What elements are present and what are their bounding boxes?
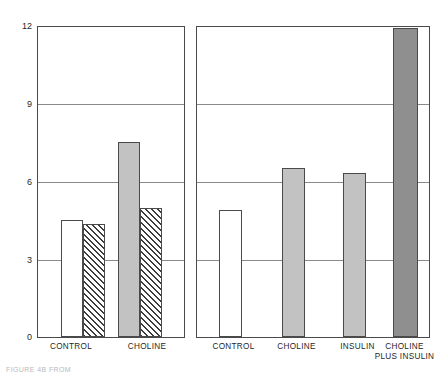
category-label-right-control: CONTROL (200, 342, 267, 352)
category-label-line2: PLUS INSULIN (373, 352, 436, 362)
gridline-9 (38, 104, 184, 105)
left-panel-plot-area (38, 27, 184, 337)
bar-left-choline-hatched (140, 208, 162, 337)
category-label-right-choline: CHOLINE (263, 342, 330, 352)
category-label-line1: CHOLINE (277, 342, 316, 351)
y-tick-9: 9 (10, 100, 32, 109)
y-tick-6: 6 (10, 178, 32, 187)
category-label-left-control: CONTROL (37, 342, 105, 352)
bar-right-choline (282, 168, 305, 337)
footer-text-fragment: FIGURE 4B FROM (6, 366, 156, 374)
y-axis-tick-labels: 12 9 6 3 0 (8, 0, 32, 376)
bar-chart-figure: RELATIVE TYROSINE HYDROXYLASE ACTIVITY 1… (0, 0, 436, 376)
category-label-line1: CONTROL (212, 342, 254, 351)
bar-left-control-hatched (83, 224, 105, 337)
bar-right-choline-plus-insulin (393, 28, 418, 337)
bar-right-insulin (343, 173, 366, 337)
y-tick-12: 12 (10, 22, 32, 31)
bar-left-control-open (61, 220, 83, 337)
category-label-line1: CHOLINE (385, 342, 424, 351)
bar-left-choline-light (118, 142, 140, 337)
y-tick-0: 0 (10, 333, 32, 342)
category-label-line1: INSULIN (340, 342, 374, 351)
right-panel (196, 26, 430, 338)
left-panel (37, 26, 185, 338)
category-label-left-choline: CHOLINE (113, 342, 181, 352)
y-tick-3: 3 (10, 256, 32, 265)
right-panel-plot-area (197, 27, 429, 337)
gridline-3 (38, 260, 184, 261)
category-label-right-choline-plus-insulin: CHOLINE PLUS INSULIN (373, 342, 436, 362)
gridline-6 (38, 182, 184, 183)
bar-right-control (219, 210, 242, 337)
